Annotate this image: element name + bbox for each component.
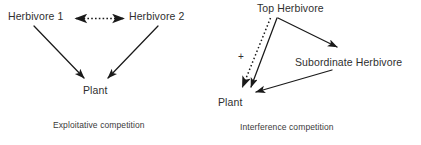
edge-herbivore2-plant <box>108 26 158 78</box>
competition-diagram-figure: Herbivore 1 Herbivore 2 Plant Exploitati… <box>0 0 421 145</box>
edge-herbivore1-plant <box>34 26 84 78</box>
edge-top-herbivore-plant-solid <box>251 18 277 87</box>
node-plant-exploitative: Plant <box>83 84 107 96</box>
node-herbivore-2: Herbivore 2 <box>129 10 184 22</box>
panel-exploitative-competition: Herbivore 1 Herbivore 2 Plant Exploitati… <box>0 0 210 145</box>
node-top-herbivore: Top Herbivore <box>257 2 324 14</box>
node-plant-interference: Plant <box>218 96 242 108</box>
caption-interference-competition: Interference competition <box>240 122 334 132</box>
caption-exploitative-competition: Exploitative competition <box>53 120 145 130</box>
node-herbivore-1: Herbivore 1 <box>8 10 63 22</box>
edge-subordinate-herbivore-plant <box>256 70 332 92</box>
panel-interference-competition: Top Herbivore Subordinate Herbivore Plan… <box>210 0 421 145</box>
edge-top-herbivore-plant-dotted <box>243 18 271 87</box>
node-subordinate-herbivore: Subordinate Herbivore <box>295 56 402 68</box>
plus-sign-annotation: + <box>238 52 244 62</box>
edge-top-herbivore-subordinate-herbivore <box>278 18 337 47</box>
